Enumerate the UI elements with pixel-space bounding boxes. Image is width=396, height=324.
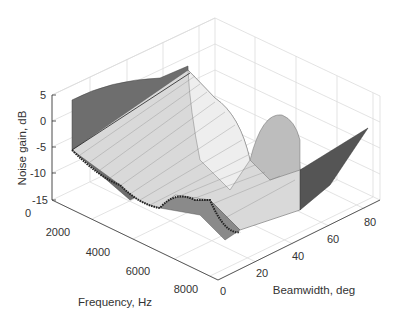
y-tick: 20 xyxy=(256,267,268,279)
z-tick: 0 xyxy=(40,115,46,127)
x-axis-label: Frequency, Hz xyxy=(78,296,152,308)
z-tick: -10 xyxy=(30,167,46,179)
x-tick: 6000 xyxy=(126,265,150,277)
x-tick: 0 xyxy=(25,207,31,219)
z-axis-label: Noise gain, dB xyxy=(16,110,28,185)
y-tick: 40 xyxy=(292,250,304,262)
z-tick: 5 xyxy=(40,89,46,101)
z-tick: -5 xyxy=(36,141,46,153)
surface-plot: 5 0 -5 -10 -15 0 2000 4000 6000 8000 0 2… xyxy=(0,0,396,324)
z-tick: -15 xyxy=(32,194,48,206)
surface xyxy=(72,66,368,240)
x-tick: 4000 xyxy=(86,246,110,258)
y-tick: 80 xyxy=(364,216,376,228)
z-axis xyxy=(52,95,56,200)
x-tick: 2000 xyxy=(46,226,70,238)
y-axis-label: Beamwidth, deg xyxy=(273,284,355,296)
x-tick: 8000 xyxy=(174,283,198,295)
y-tick: 60 xyxy=(327,233,339,245)
y-tick: 0 xyxy=(220,285,226,297)
